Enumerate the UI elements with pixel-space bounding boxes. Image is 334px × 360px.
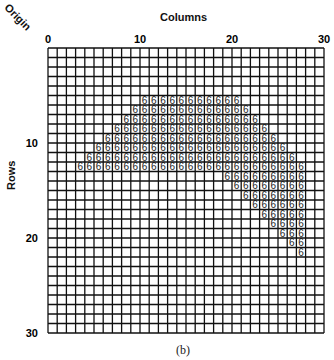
x-tick-label: 0 bbox=[45, 33, 51, 45]
grid-cell-value: 6 bbox=[96, 161, 102, 172]
grid-cell-value: 6 bbox=[197, 161, 203, 172]
grid-cell-value: 6 bbox=[215, 161, 221, 172]
x-tick-label: 10 bbox=[134, 33, 146, 45]
grid-cell-value: 6 bbox=[289, 237, 295, 248]
grid-cell-value: 6 bbox=[298, 247, 304, 258]
grid-cell-value: 6 bbox=[179, 161, 185, 172]
grid-cell-value: 6 bbox=[77, 161, 83, 172]
grid-cell-value: 6 bbox=[160, 161, 166, 172]
raster-grid: 6666666666666666666666666666666666666666… bbox=[47, 47, 325, 334]
grid-cell-value: 6 bbox=[261, 209, 267, 220]
grid-cell-value: 6 bbox=[206, 161, 212, 172]
x-tick-label: 30 bbox=[318, 33, 330, 45]
grid-cell-value: 6 bbox=[234, 180, 240, 191]
y-tick-label: 20 bbox=[20, 232, 38, 244]
grid-cell-value: 6 bbox=[105, 161, 111, 172]
x-tick-label: 20 bbox=[226, 33, 238, 45]
origin-label: Origin bbox=[2, 2, 33, 33]
grid-cell-value: 6 bbox=[123, 161, 129, 172]
grid-cell-value: 6 bbox=[142, 161, 148, 172]
grid-cell-value: 6 bbox=[114, 161, 120, 172]
grid-svg: 6666666666666666666666666666666666666666… bbox=[47, 47, 325, 334]
grid-cell-value: 6 bbox=[133, 161, 139, 172]
figure-caption: (b) bbox=[176, 343, 190, 358]
grid-cell-value: 6 bbox=[280, 228, 286, 239]
y-tick-label: 10 bbox=[20, 137, 38, 149]
grid-cell-value: 6 bbox=[252, 199, 258, 210]
grid-cell-value: 6 bbox=[271, 218, 277, 229]
x-axis-title: Columns bbox=[160, 12, 207, 23]
grid-cell-value: 6 bbox=[225, 171, 231, 182]
grid-cell-value: 6 bbox=[87, 161, 93, 172]
grid-cell-value: 6 bbox=[188, 161, 194, 172]
grid-cell-value: 6 bbox=[169, 161, 175, 172]
grid-cell-value: 6 bbox=[151, 161, 157, 172]
y-axis-title: Rows bbox=[6, 161, 17, 190]
y-tick-label: 30 bbox=[20, 327, 38, 339]
grid-cell-value: 6 bbox=[243, 190, 249, 201]
